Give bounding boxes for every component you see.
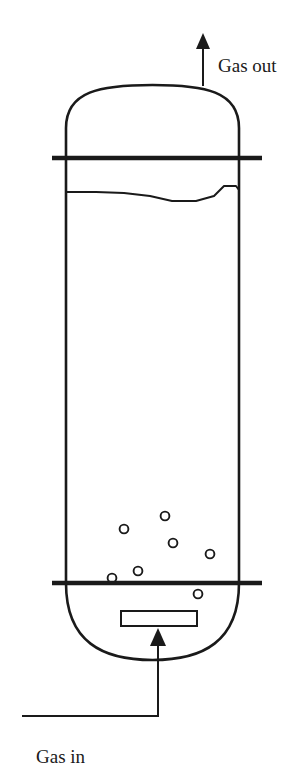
diagram-canvas: Gas out Gas in (0, 0, 307, 780)
sparger-plate (121, 611, 197, 626)
gas-out-label: Gas out (218, 55, 277, 76)
diagram-background (0, 0, 307, 780)
bubble-column-diagram: Gas out Gas in (0, 0, 307, 780)
gas-in-label: Gas in (36, 746, 86, 767)
